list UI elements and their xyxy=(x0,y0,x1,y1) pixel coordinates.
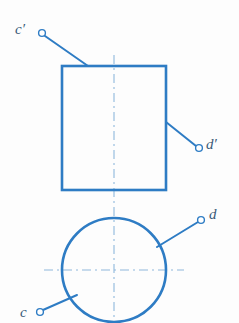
point-marker-d-prime xyxy=(196,145,203,152)
point-label-d-prime: d′ xyxy=(206,137,217,152)
point-marker-c xyxy=(37,309,44,316)
point-label-d: d xyxy=(209,207,217,222)
leader-line-c-prime xyxy=(45,36,88,66)
point-label-c-prime: c′ xyxy=(15,22,25,37)
point-label-c: c xyxy=(20,305,27,320)
technical-drawing-canvas: c′ d′ d c xyxy=(0,0,239,323)
leader-line-d-prime xyxy=(166,122,196,146)
point-marker-c-prime xyxy=(39,30,46,37)
leader-line-d xyxy=(157,222,198,247)
point-marker-d xyxy=(198,217,205,224)
orthographic-projection-svg xyxy=(0,0,239,323)
leader-lines-group xyxy=(43,36,198,310)
